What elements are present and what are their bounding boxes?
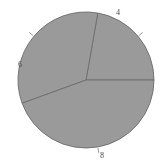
pie-slice-label-8: 8: [100, 152, 104, 160]
pie-chart-figure: 4 6 8: [0, 0, 163, 166]
pie-slice-label-6: 6: [18, 61, 22, 69]
leader-line-4: [139, 32, 143, 35]
pie-slice-label-4: 4: [116, 9, 120, 17]
leader-line-8: [98, 148, 99, 153]
pie-chart-canvas: [0, 0, 163, 166]
leader-line-6: [29, 32, 33, 35]
pie-slices: [18, 12, 154, 148]
